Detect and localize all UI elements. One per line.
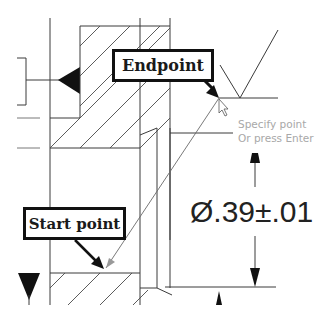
command-prompt-line1: Specify point xyxy=(238,118,306,130)
left-dashes xyxy=(17,118,40,148)
startpoint-arrow xyxy=(75,240,115,269)
drawing-canvas[interactable] xyxy=(0,0,336,319)
construction-lines xyxy=(219,30,278,98)
datum-triangle-icon xyxy=(58,67,80,94)
diameter-dimension-text[interactable]: Ø.39±.01 xyxy=(190,194,313,230)
slot-outline xyxy=(140,128,172,295)
endpoint-callout-label: Endpoint xyxy=(122,56,204,75)
endpoint-arrow xyxy=(205,81,219,98)
left-bracket xyxy=(17,58,60,105)
arrow-cursor-icon xyxy=(219,99,228,116)
lower-hatching xyxy=(50,273,148,305)
command-prompt-line2: Or press Enter xyxy=(238,132,314,144)
startpoint-callout: Start point xyxy=(23,207,126,240)
lower-section-outline xyxy=(50,273,276,287)
rubberband-line xyxy=(106,98,219,268)
endpoint-callout: Endpoint xyxy=(112,49,214,82)
startpoint-callout-label: Start point xyxy=(29,215,121,233)
